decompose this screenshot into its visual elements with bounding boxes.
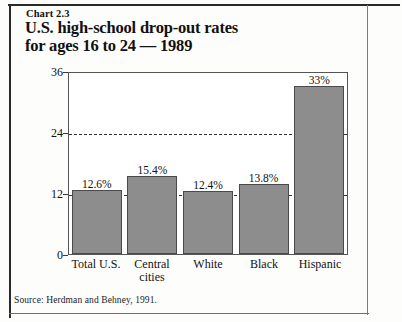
x-axis-label: Hispanic: [295, 258, 345, 284]
bar-slot: 33%: [294, 73, 344, 254]
bar-value-label: 13.8%: [249, 172, 279, 184]
bar-series: 12.6%15.4%12.4%13.8%33%: [69, 73, 347, 254]
figure-border-top: [8, 4, 400, 6]
bar-slot: 15.4%: [127, 73, 177, 254]
figure-border-right: [367, 5, 368, 315]
bar-value-label: 12.4%: [193, 179, 223, 191]
source-note: Source: Herdman and Behney, 1991.: [14, 295, 157, 305]
y-axis-tick-labels: 0122436: [38, 72, 63, 255]
bar-value-label: 15.4%: [138, 164, 168, 176]
bar[interactable]: 12.6%: [72, 190, 122, 254]
y-tick-mark-0: [63, 255, 68, 256]
bar[interactable]: 33%: [294, 86, 344, 254]
bar[interactable]: 12.4%: [183, 191, 233, 254]
bar[interactable]: 15.4%: [127, 176, 177, 254]
plot-area: 12.6%15.4%12.4%13.8%33%: [68, 72, 348, 255]
x-axis-label: Central cities: [127, 258, 177, 284]
x-axis-label: Total U.S.: [71, 258, 121, 284]
bar[interactable]: 13.8%: [239, 184, 289, 254]
bar-slot: 13.8%: [239, 73, 289, 254]
chart-title: U.S. high-school drop-out rates for ages…: [25, 19, 238, 55]
y-tick-label-12: 12: [51, 187, 63, 202]
bar-slot: 12.4%: [183, 73, 233, 254]
figure-border-bottom: [9, 313, 369, 314]
chart-figure: Chart 2.3 U.S. high-school drop-out rate…: [0, 0, 402, 322]
x-axis-label: White: [183, 258, 233, 284]
bar-slot: 12.6%: [72, 73, 122, 254]
figure-border-left: [9, 4, 11, 318]
y-tick-label-24: 24: [51, 126, 63, 141]
x-axis-label: Black: [239, 258, 289, 284]
y-tick-label-36: 36: [51, 65, 63, 80]
bar-value-label: 33%: [309, 74, 330, 86]
bar-value-label: 12.6%: [82, 178, 112, 190]
x-axis-category-labels: Total U.S.Central citiesWhiteBlackHispan…: [68, 258, 348, 284]
